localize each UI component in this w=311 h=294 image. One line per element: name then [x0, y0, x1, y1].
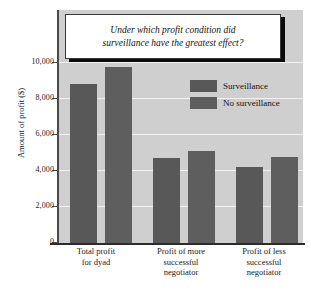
bar-no-surveillance-less — [271, 157, 298, 243]
category-line: Total profit — [50, 246, 142, 257]
category-line: for dyad — [50, 257, 142, 268]
category-line: successful — [135, 257, 227, 268]
bar-no-surveillance-more — [188, 151, 215, 243]
bar-surveillance-total — [70, 84, 97, 243]
legend-item-surveillance: Surveillance — [190, 78, 302, 93]
y-label-6000: 6,000 — [36, 129, 55, 138]
category-line: Profit of more — [135, 246, 227, 257]
legend-swatch-surveillance — [190, 80, 217, 92]
legend-label-no-surveillance: No surveillance — [223, 98, 280, 108]
chart-title: Under which profit condition did surveil… — [96, 24, 249, 49]
category-line: negotiator — [135, 267, 227, 278]
title-line-2: surveillance have the greatest effect? — [102, 37, 243, 50]
category-label-more-successful: Profit of more successful negotiator — [135, 246, 227, 278]
category-line: Profit of less — [218, 246, 310, 257]
y-axis-line — [57, 10, 59, 244]
category-label-less-successful: Profit of less successful negotiator — [218, 246, 310, 278]
legend-swatch-no-surveillance — [190, 97, 217, 109]
legend: Surveillance No surveillance — [190, 78, 302, 112]
y-label-10000: 10,000 — [31, 57, 54, 66]
bar-no-surveillance-total — [105, 67, 132, 243]
y-label-4000: 4,000 — [36, 165, 55, 174]
title-callout-box: Under which profit condition did surveil… — [65, 14, 281, 59]
y-label-0: 0 — [50, 237, 54, 246]
category-line: successful — [218, 257, 310, 268]
y-label-2000: 2,000 — [36, 201, 55, 210]
bar-chart-figure: 10,000 8,000 6,000 4,000 2,000 0 Amount … — [0, 0, 311, 294]
y-axis-tick-labels: 10,000 8,000 6,000 4,000 2,000 0 — [6, 0, 54, 294]
x-axis-category-labels: Total profit for dyad Profit of more suc… — [50, 246, 308, 294]
bar-surveillance-more — [153, 158, 180, 243]
title-line-1: Under which profit condition did — [102, 24, 243, 37]
y-axis-title: Amount of profit ($) — [16, 58, 26, 188]
legend-label-surveillance: Surveillance — [223, 81, 268, 91]
category-label-total-profit: Total profit for dyad — [50, 246, 142, 267]
category-line: negotiator — [218, 267, 310, 278]
x-axis-line — [50, 243, 305, 245]
legend-item-no-surveillance: No surveillance — [190, 95, 302, 110]
bar-surveillance-less — [236, 167, 263, 243]
y-label-8000: 8,000 — [36, 93, 55, 102]
